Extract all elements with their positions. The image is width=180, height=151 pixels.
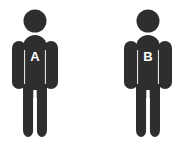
figure-b-right-leg (150, 88, 160, 137)
figure-b-left-arm (124, 41, 138, 89)
figure-a-head-icon (24, 10, 47, 33)
figure-b-left-leg (136, 88, 146, 137)
pictogram-canvas: A B (0, 0, 180, 151)
figure-a-left-leg (23, 88, 33, 137)
pictogram-svg: A B (0, 0, 180, 151)
figure-b-right-arm (158, 41, 172, 89)
figure-a-label: A (30, 49, 40, 64)
figure-b-label: B (143, 49, 152, 64)
figure-b-head-icon (137, 10, 160, 33)
figure-a-right-leg (37, 88, 47, 137)
